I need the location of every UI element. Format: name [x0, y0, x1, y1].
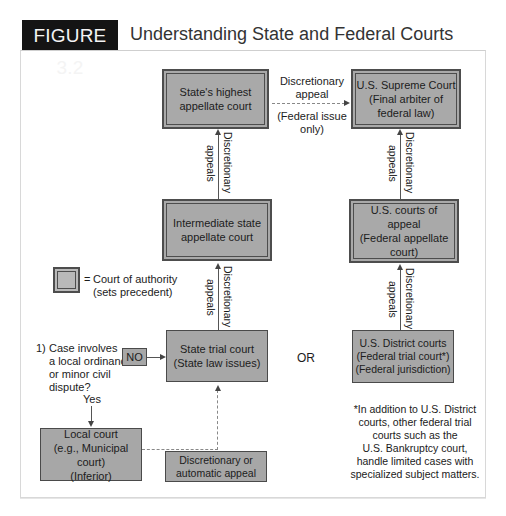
state-trial-court-box: State trial court (State law issues) — [166, 330, 268, 382]
legend-equals: = — [84, 272, 90, 286]
us-supreme-court-box: U.S. Supreme Court (Final arbiter of fed… — [352, 70, 460, 128]
state-lower-appeals-label: appeals — [205, 279, 217, 316]
federal-appeal-arrowhead-upper — [397, 129, 403, 135]
intermediate-line1: Intermediate state — [173, 216, 261, 230]
federal-appeal-line-lower — [400, 268, 401, 330]
us-appeals-line2: (Federal appellate — [360, 231, 449, 245]
state-upper-discretionary-label: Discretionary — [222, 132, 234, 193]
us-supreme-line1: U.S. Supreme Court — [356, 78, 455, 92]
federal-issue-arrow-line — [272, 103, 345, 104]
question-line3: or minor civil — [49, 367, 111, 381]
local-court-line3: (Inferior) — [70, 469, 112, 483]
footnote-line6: specialized subject matters. — [345, 468, 485, 481]
local-appeal-arrowhead — [215, 385, 221, 391]
question-line2: a local ordinance — [49, 354, 132, 368]
state-trial-line1: State trial court — [180, 342, 254, 356]
top-arrow-label-2: appeal — [273, 87, 351, 101]
disc-auto-line1: Discretionary or — [179, 454, 253, 467]
legend-line1: Court of authority — [93, 272, 177, 286]
top-arrow-label-4: only) — [273, 122, 351, 136]
figure-tag: FIGURE 3.2 — [22, 20, 118, 50]
discretionary-automatic-appeal-box: Discretionary or automatic appeal — [165, 451, 267, 482]
disc-auto-line2: automatic appeal — [176, 467, 256, 480]
footnote-line4: U.S. Bankruptcy court, — [345, 442, 485, 455]
footnote: *In addition to U.S. District courts, ot… — [345, 403, 485, 481]
intermediate-line2: appellate court — [181, 230, 253, 244]
footnote-line5: handle limited cases with — [345, 455, 485, 468]
intermediate-state-court-box: Intermediate state appellate court — [163, 200, 271, 260]
federal-lower-appeals-label: appeals — [387, 281, 399, 318]
local-court-line1: Local court — [64, 427, 118, 441]
us-supreme-line2: (Final arbiter of — [369, 92, 443, 106]
state-appeal-line-lower — [218, 266, 219, 330]
state-highest-court-label: State's highest appellate court — [176, 85, 256, 113]
federal-lower-discretionary-label: Discretionary — [404, 268, 416, 329]
state-highest-court-box: State's highest appellate court — [163, 70, 268, 128]
footnote-line1: *In addition to U.S. District — [345, 403, 485, 416]
us-appeals-line3: court) — [390, 245, 418, 259]
local-court-line2: (e.g., Municipal court) — [41, 441, 141, 469]
state-upper-appeals-label: appeals — [205, 145, 217, 182]
legend-line2: (sets precedent) — [93, 285, 172, 299]
federal-upper-appeals-label: appeals — [387, 145, 399, 182]
top-arrow-label-3: (Federal issue — [273, 109, 351, 123]
us-supreme-line3: federal law) — [378, 106, 435, 120]
federal-appeal-line-upper — [400, 134, 401, 200]
or-label: OR — [297, 351, 315, 365]
no-decision-box: NO — [122, 348, 147, 366]
footnote-line3: courts such as the — [345, 429, 485, 442]
yes-arrow-line — [91, 406, 92, 422]
local-appeal-dashed-line-v — [217, 390, 218, 450]
us-district-line3: (Federal jurisdiction) — [355, 363, 450, 376]
figure-title: Understanding State and Federal Courts — [130, 24, 453, 45]
state-lower-discretionary-label: Discretionary — [222, 266, 234, 327]
top-arrow-label-1: Discretionary — [273, 74, 351, 88]
federal-appeal-arrowhead-lower — [397, 264, 403, 270]
us-appeals-line1: U.S. courts of appeal — [354, 203, 454, 231]
question-line1: Case involves — [49, 341, 117, 355]
no-arrow-line — [147, 357, 160, 358]
question-number: 1) — [36, 341, 46, 355]
yes-label: Yes — [83, 392, 101, 406]
state-appeal-arrowhead-upper — [215, 129, 221, 135]
federal-upper-discretionary-label: Discretionary — [404, 132, 416, 193]
us-district-line2: (Federal trial court*) — [357, 350, 450, 363]
local-appeal-dashed-line-h — [142, 449, 218, 450]
legend-authority-swatch — [54, 268, 79, 292]
state-appeal-line-upper — [218, 134, 219, 200]
us-courts-of-appeal-box: U.S. courts of appeal (Federal appellate… — [350, 200, 458, 262]
us-district-courts-box: U.S. District courts (Federal trial cour… — [352, 330, 454, 383]
state-appeal-arrowhead-lower — [215, 263, 221, 269]
footnote-line2: courts, other federal trial — [345, 416, 485, 429]
local-court-box: Local court (e.g., Municipal court) (Inf… — [40, 428, 142, 481]
us-district-line1: U.S. District courts — [360, 337, 447, 350]
no-label: NO — [126, 350, 143, 364]
state-trial-line2: (State law issues) — [174, 356, 261, 370]
